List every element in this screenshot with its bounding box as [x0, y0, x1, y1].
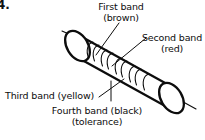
callout-fourth-band-line2: (tolerance): [38, 116, 156, 127]
callout-fourth-band-line1: Fourth band (black): [52, 105, 142, 116]
callout-first-band-line1: First band: [98, 1, 143, 12]
callout-fourth-band: Fourth band (black) (tolerance): [38, 105, 156, 127]
callout-third-band-line1: Third band (yellow): [5, 90, 94, 101]
callout-second-band: Second band (red): [140, 32, 204, 54]
callout-first-band: First band (brown): [88, 1, 154, 23]
callout-second-band-line2: (red): [140, 43, 204, 54]
callout-second-band-line1: Second band: [142, 32, 202, 43]
callout-third-band: Third band (yellow): [5, 90, 94, 101]
figure-canvas: 4.: [0, 0, 205, 140]
callout-first-band-line2: (brown): [88, 12, 154, 23]
